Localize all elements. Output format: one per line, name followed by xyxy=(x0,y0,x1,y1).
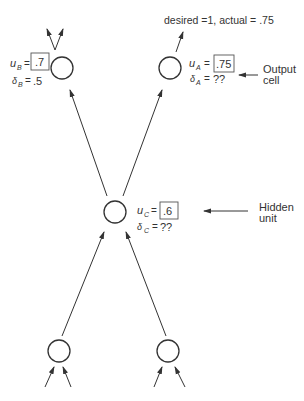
delta-a-value: ?? xyxy=(213,73,225,85)
arrow-input-left-to-c xyxy=(62,232,104,336)
u-c-equals: = xyxy=(151,205,157,216)
delta-c-value: ?? xyxy=(160,221,172,233)
node-c: u C = .6 δ C = ?? Hidden unit xyxy=(70,90,294,234)
u-b-equals: = xyxy=(24,58,30,69)
input-left-circle xyxy=(48,340,70,362)
delta-b-subscript: B xyxy=(18,81,23,88)
u-a-equals: = xyxy=(204,58,210,69)
input-node-right xyxy=(126,232,185,387)
arrow-a-out xyxy=(176,32,183,52)
arrow-into-input-left-a xyxy=(45,367,54,387)
node-a: desired =1, actual = .75 u A = .75 δ A =… xyxy=(159,14,296,86)
input-node-left xyxy=(45,232,104,387)
node-a-circle xyxy=(159,57,181,79)
u-c-subscript: C xyxy=(144,211,150,218)
node-b-circle xyxy=(51,57,73,79)
u-c-symbol: u xyxy=(137,204,143,216)
arrow-c-to-b xyxy=(70,90,107,196)
arrow-c-to-a xyxy=(123,90,162,196)
delta-b-equals: = xyxy=(25,75,31,86)
delta-c-equals: = xyxy=(152,221,158,232)
arrow-b-out-right xyxy=(55,29,63,50)
delta-c-subscript: C xyxy=(144,227,150,234)
arrow-into-input-left-b xyxy=(63,367,71,387)
delta-b-value: .5 xyxy=(33,75,42,87)
arrow-into-input-right-a xyxy=(154,367,162,387)
input-right-circle xyxy=(157,340,179,362)
arrow-input-right-to-c xyxy=(126,232,166,336)
delta-a-subscript: A xyxy=(195,79,201,86)
desired-actual-annotation: desired =1, actual = .75 xyxy=(164,14,274,26)
u-a-subscript: A xyxy=(195,64,201,71)
u-b-subscript: B xyxy=(17,64,22,71)
network-diagram: u B = .7 δ B = .5 desired =1, actual = .… xyxy=(0,0,304,401)
delta-c-symbol: δ xyxy=(137,222,143,232)
u-c-value: .6 xyxy=(163,205,172,217)
arrow-b-out-left xyxy=(47,29,55,50)
u-b-symbol: u xyxy=(10,57,16,69)
u-a-symbol: u xyxy=(189,57,195,69)
arrow-into-input-right-b xyxy=(175,367,185,387)
node-b: u B = .7 δ B = .5 xyxy=(10,29,73,88)
node-c-circle xyxy=(104,201,126,223)
delta-a-equals: = xyxy=(204,73,210,84)
u-a-value: .75 xyxy=(216,58,231,70)
hidden-unit-label-line2: unit xyxy=(259,212,277,224)
u-b-value: .7 xyxy=(35,56,44,68)
output-cell-label-line2: cell xyxy=(263,74,280,86)
